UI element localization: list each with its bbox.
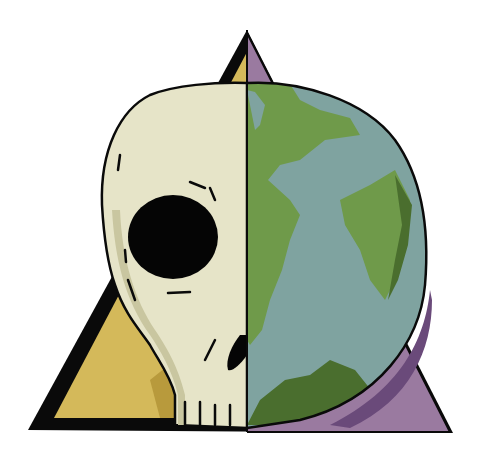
eye-socket xyxy=(128,195,218,279)
skull-earth-illustration xyxy=(0,0,481,462)
